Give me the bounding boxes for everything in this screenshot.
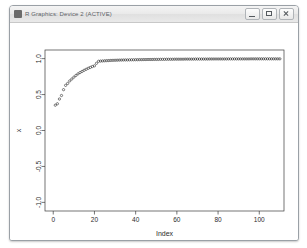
y-tick-label: 0.5 (35, 90, 42, 99)
x-tick-label: 20 (91, 216, 99, 223)
data-point (73, 76, 75, 78)
close-button[interactable] (279, 8, 294, 20)
data-point (75, 74, 77, 76)
data-point (64, 84, 66, 86)
scatter-plot: 020406080100-1.0-0.50.00.51.0Indexx (10, 23, 298, 240)
data-point (69, 80, 71, 82)
y-tick-label: 1.0 (35, 54, 42, 63)
data-point (58, 98, 60, 100)
minimize-icon (249, 16, 255, 17)
plot-canvas: 020406080100-1.0-0.50.00.51.0Indexx (10, 23, 298, 240)
window-titlebar[interactable]: R Graphics: Device 2 (ACTIVE) (10, 6, 298, 23)
x-tick-label: 40 (132, 216, 140, 223)
data-point (71, 78, 73, 80)
plot-frame (45, 50, 284, 211)
screen: R Graphics: Device 2 (ACTIVE) 0204060801… (0, 0, 307, 248)
series-x (54, 58, 281, 107)
minimize-button[interactable] (245, 8, 260, 20)
x-tick-label: 60 (173, 216, 181, 223)
data-point (95, 62, 97, 64)
y-tick-label: -1.0 (35, 196, 42, 208)
window-title: R Graphics: Device 2 (ACTIVE) (25, 10, 245, 18)
y-tick-label: -0.5 (35, 160, 42, 172)
y-tick-label: 0.0 (35, 126, 42, 135)
data-point (67, 82, 69, 84)
data-point (62, 89, 64, 91)
y-axis-title: x (15, 128, 22, 132)
window-controls (245, 8, 294, 20)
data-point (60, 94, 62, 96)
r-app-icon (14, 10, 22, 18)
x-tick-label: 80 (214, 216, 222, 223)
data-point (56, 103, 58, 105)
x-tick-label: 100 (254, 216, 265, 223)
x-axis-title: Index (156, 230, 174, 237)
r-graphics-window: R Graphics: Device 2 (ACTIVE) 0204060801… (9, 5, 299, 241)
maximize-button[interactable] (262, 8, 277, 20)
data-point (93, 65, 95, 67)
x-tick-label: 0 (51, 216, 55, 223)
maximize-icon (266, 11, 272, 16)
